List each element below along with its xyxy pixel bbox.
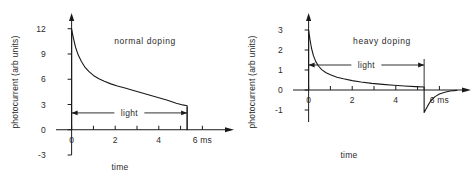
x-tick-label: 4 bbox=[156, 135, 161, 145]
x-axis-arrowhead bbox=[462, 87, 471, 92]
panel-normal-doping: 0246 ms-3036912 photocurrent (arb units)… bbox=[0, 0, 237, 187]
x-tick-label: 6 ms bbox=[193, 135, 212, 145]
light-arrowhead-start bbox=[72, 111, 78, 116]
x-tick-label: 0 bbox=[306, 95, 311, 105]
y-tick-label: -1 bbox=[275, 105, 283, 115]
y-axis-label-right: photocurrent (arb units) bbox=[247, 35, 257, 128]
figure-photocurrent-comparison: 0246 ms-3036912 photocurrent (arb units)… bbox=[0, 0, 474, 187]
light-arrowhead-end bbox=[181, 111, 187, 116]
x-tick-label: 0 bbox=[69, 135, 74, 145]
y-tick-label: 3 bbox=[41, 100, 46, 110]
y-axis-label-left: photocurrent (arb units) bbox=[10, 35, 20, 128]
chart-right: 0246 ms-10123 photocurrent (arb units) t… bbox=[237, 0, 474, 187]
y-tick-label: 1 bbox=[278, 65, 283, 75]
x-axis-arrowhead bbox=[225, 127, 234, 132]
y-tick-label: 0 bbox=[41, 125, 46, 135]
panel-title-left: normal doping bbox=[114, 36, 176, 46]
y-tick-label: 0 bbox=[278, 85, 283, 95]
x-tick-label: 6 ms bbox=[430, 95, 449, 105]
x-tick-label: 4 bbox=[393, 95, 398, 105]
x-tick-label: 2 bbox=[113, 135, 118, 145]
y-tick-label: 9 bbox=[41, 49, 46, 59]
y-axis-arrowhead bbox=[69, 13, 74, 21]
x-axis-label-left: time bbox=[112, 162, 129, 172]
chart-left: 0246 ms-3036912 photocurrent (arb units)… bbox=[0, 0, 237, 187]
y-tick-label: -3 bbox=[38, 150, 46, 160]
light-arrowhead-start bbox=[309, 63, 315, 68]
y-tick-label: 12 bbox=[36, 24, 46, 34]
light-arrowhead-end bbox=[418, 63, 424, 68]
y-tick-label: 6 bbox=[41, 74, 46, 84]
y-tick-label: 3 bbox=[278, 25, 283, 35]
light-annotation-label-left: light bbox=[121, 108, 138, 118]
panel-title-right: heavy doping bbox=[353, 36, 411, 46]
x-axis-label-right: time bbox=[341, 150, 358, 160]
y-axis-arrowhead bbox=[306, 13, 311, 21]
panel-heavy-doping: 0246 ms-10123 photocurrent (arb units) t… bbox=[237, 0, 474, 187]
x-tick-label: 2 bbox=[350, 95, 355, 105]
light-annotation-label-right: light bbox=[358, 60, 375, 70]
y-tick-label: 2 bbox=[278, 45, 283, 55]
